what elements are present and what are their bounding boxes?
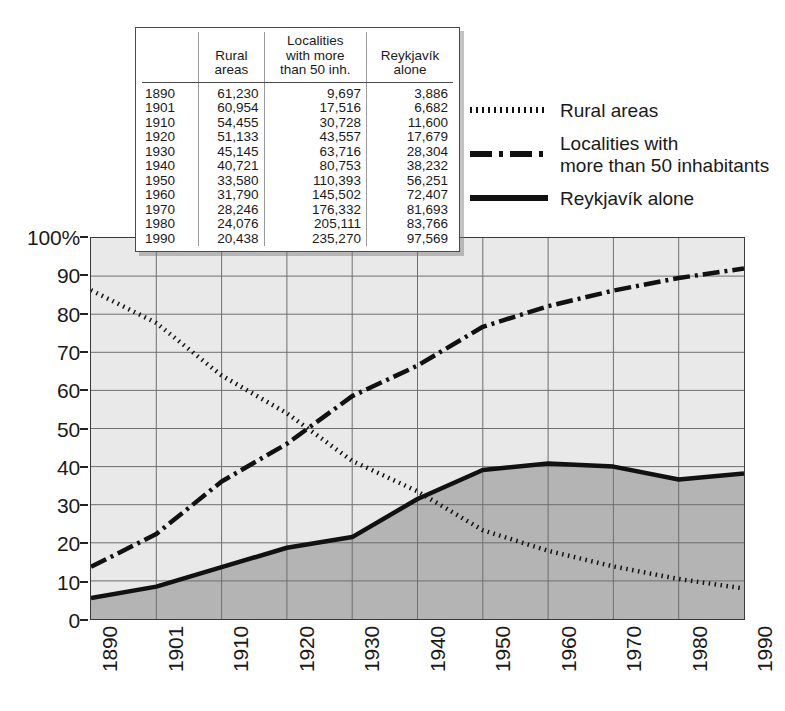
y-axis-tick-mark [80, 619, 88, 621]
x-axis-tick-label: 1920 [296, 626, 317, 672]
y-axis-tick-label: 100% [27, 227, 80, 248]
table-row: 192051,13343,55717,679 [142, 130, 453, 145]
y-axis-tick-mark [80, 236, 88, 238]
plot-area [90, 237, 745, 620]
table-cell-year: 1960 [142, 188, 199, 203]
table-row: 190160,95417,5166,682 [142, 101, 453, 116]
table-cell-rural: 45,145 [199, 145, 265, 160]
y-axis-tick-mark [80, 581, 88, 583]
table-cell-reykjavik: 83,766 [366, 217, 453, 232]
table-cell-year: 1940 [142, 159, 199, 174]
x-axis-tick-label: 1940 [427, 626, 448, 672]
table-row: 194040,72180,75338,232 [142, 159, 453, 174]
x-axis-tick-label: 1910 [230, 626, 251, 672]
y-axis-tick-mark [80, 313, 88, 315]
y-axis-tick-mark [80, 428, 88, 430]
table-cell-rural: 60,954 [199, 101, 265, 116]
table-cell-reykjavik: 3,886 [366, 82, 453, 101]
table-cell-year: 1910 [142, 116, 199, 131]
table-cell-reykjavik: 6,682 [366, 101, 453, 116]
y-axis-tick-label: 80 [57, 303, 80, 324]
col-header-rural: Ruralareas [199, 32, 265, 82]
y-axis-tick-label: 60 [57, 380, 80, 401]
table-cell-year: 1930 [142, 145, 199, 160]
legend-line-sample-solid [470, 188, 548, 208]
y-axis-tick-label: 70 [57, 341, 80, 362]
table-cell-reykjavik: 28,304 [366, 145, 453, 160]
table-body: 189061,2309,6973,886190160,95417,5166,68… [142, 82, 453, 246]
table-row: 195033,580110,39356,251 [142, 174, 453, 189]
y-axis: 0102030405060708090100% [0, 225, 88, 630]
y-axis-tick-label: 40 [57, 456, 80, 477]
y-axis-tick-label: 90 [57, 265, 80, 286]
table-cell-year: 1890 [142, 82, 199, 101]
legend-line-sample-dash-dot [470, 144, 548, 164]
y-axis-tick-label: 0 [69, 610, 80, 631]
table-cell-rural: 28,246 [199, 203, 265, 218]
table-cell-year: 1980 [142, 217, 199, 232]
table-cell-rural: 24,076 [199, 217, 265, 232]
table-cell-rural: 33,580 [199, 174, 265, 189]
col-header-localities: Localitieswith morethan 50 inh. [264, 32, 366, 82]
table-cell-year: 1970 [142, 203, 199, 218]
table-cell-localities: 176,332 [264, 203, 366, 218]
x-axis-tick-label: 1990 [754, 626, 775, 672]
legend-label: Localities with more than 50 inhabitants [560, 133, 769, 177]
table-cell-reykjavik: 56,251 [366, 174, 453, 189]
table-cell-year: 1950 [142, 174, 199, 189]
population-distribution-chart: 0102030405060708090100% 1890190119101920… [0, 0, 785, 711]
table-cell-rural: 51,133 [199, 130, 265, 145]
table-row: 199020,438235,27097,569 [142, 232, 453, 247]
table-cell-year: 1901 [142, 101, 199, 116]
legend-item-2: Reykjavík alone [470, 188, 770, 210]
table-cell-rural: 61,230 [199, 82, 265, 101]
chart-legend: Rural areasLocalities with more than 50 … [470, 100, 770, 221]
table-cell-localities: 17,516 [264, 101, 366, 116]
table-cell-localities: 63,716 [264, 145, 366, 160]
table-cell-rural: 40,721 [199, 159, 265, 174]
table-header-row: Ruralareas Localitieswith morethan 50 in… [142, 32, 453, 82]
y-axis-tick-mark [80, 274, 88, 276]
x-axis-tick-label: 1960 [558, 626, 579, 672]
table-row: 189061,2309,6973,886 [142, 82, 453, 101]
population-data-table: Ruralareas Localitieswith morethan 50 in… [142, 32, 453, 246]
table-cell-reykjavik: 11,600 [366, 116, 453, 131]
x-axis-tick-label: 1980 [689, 626, 710, 672]
table-cell-localities: 43,557 [264, 130, 366, 145]
y-axis-tick-label: 50 [57, 418, 80, 439]
table-row: 197028,246176,33281,693 [142, 203, 453, 218]
x-axis-tick-label: 1930 [361, 626, 382, 672]
x-axis: 1890190119101920193019401950196019701980… [90, 622, 745, 711]
table-cell-reykjavik: 81,693 [366, 203, 453, 218]
table-cell-year: 1920 [142, 130, 199, 145]
table-cell-rural: 20,438 [199, 232, 265, 247]
table-cell-reykjavik: 38,232 [366, 159, 453, 174]
table-cell-localities: 145,502 [264, 188, 366, 203]
col-header-year [142, 32, 199, 82]
y-axis-tick-mark [80, 351, 88, 353]
table-cell-reykjavik: 97,569 [366, 232, 453, 247]
x-axis-tick-label: 1890 [99, 626, 120, 672]
table-cell-localities: 30,728 [264, 116, 366, 131]
data-table-panel: Ruralareas Localitieswith morethan 50 in… [135, 27, 460, 252]
y-axis-tick-mark [80, 504, 88, 506]
table-row: 196031,790145,50272,407 [142, 188, 453, 203]
y-axis-tick-label: 30 [57, 495, 80, 516]
y-axis-tick-mark [80, 466, 88, 468]
legend-label: Rural areas [560, 100, 658, 122]
plot-svg [91, 238, 744, 619]
x-axis-tick-label: 1970 [623, 626, 644, 672]
y-axis-tick-label: 10 [57, 571, 80, 592]
table-row: 198024,076205,11183,766 [142, 217, 453, 232]
table-cell-localities: 80,753 [264, 159, 366, 174]
table-cell-rural: 54,455 [199, 116, 265, 131]
table-cell-localities: 235,270 [264, 232, 366, 247]
table-row: 193045,14563,71628,304 [142, 145, 453, 160]
legend-item-0: Rural areas [470, 100, 770, 122]
table-cell-localities: 205,111 [264, 217, 366, 232]
x-axis-tick-label: 1901 [165, 626, 186, 672]
legend-line-sample-dotted [470, 100, 548, 120]
table-cell-reykjavik: 17,679 [366, 130, 453, 145]
table-cell-localities: 110,393 [264, 174, 366, 189]
table-cell-year: 1990 [142, 232, 199, 247]
